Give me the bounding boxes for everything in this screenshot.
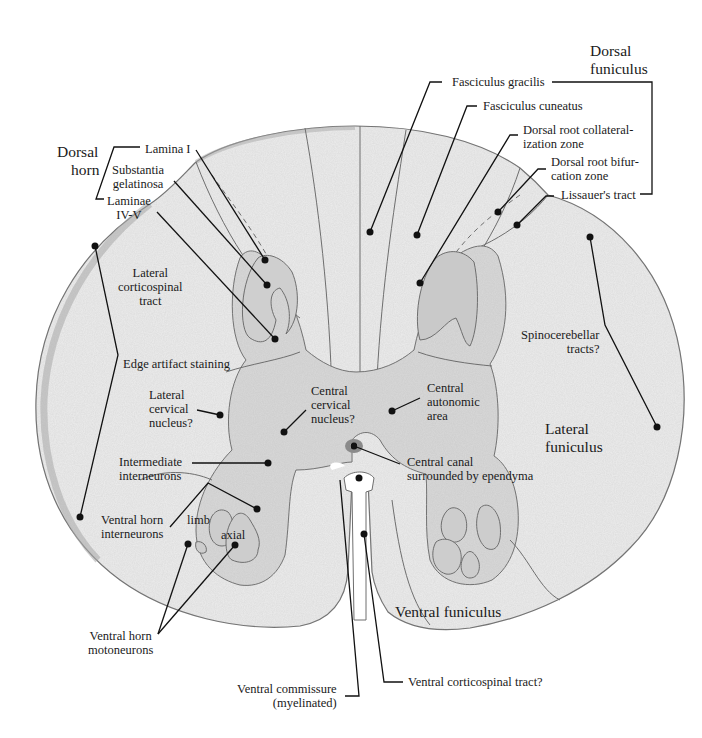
label-fasciculus-gracilis: Fasciculus gracilis [452, 75, 545, 89]
label-lateral-funiculus: Lateral funiculus [545, 420, 603, 456]
label-ventral-funiculus: Ventral funiculus [395, 603, 501, 621]
dorsal-funiculus-heading: Dorsal funiculus [590, 42, 648, 78]
label-lamina-i: Lamina I [145, 142, 190, 156]
label-axial: axial [221, 528, 245, 542]
label-lateral-cervical-nucleus: Lateral cervical nucleus? [149, 388, 193, 430]
label-spinocerebellar-tracts: Spinocerebellar tracts? [521, 328, 599, 356]
label-ventral-horn-motoneurons: Ventral horn motoneurons [88, 629, 153, 657]
label-laminae-iv-v: Laminae IV-V [107, 194, 151, 222]
label-ventral-corticospinal-tract: Ventral corticospinal tract? [408, 675, 543, 689]
label-ventral-commissure: Ventral commissure (myelinated) [237, 682, 337, 710]
label-central-canal: Central canal surrounded by ependyma [407, 455, 533, 483]
label-substantia-gelatinosa: Substantia gelatinosa [112, 163, 164, 191]
label-limb: limb [187, 513, 210, 527]
spinal-cord-diagram: Dorsal horn Dorsal funiculus Lamina I Su… [0, 0, 702, 738]
label-central-autonomic-area: Central autonomic area [427, 381, 480, 423]
label-dorsal-root-collateralization-zone: Dorsal root collateral- ization zone [523, 123, 633, 151]
label-central-cervical-nucleus: Central cervical nucleus? [311, 384, 355, 426]
label-lissauers-tract: Lissauer's tract [561, 188, 636, 202]
label-edge-artifact-staining: Edge artifact staining [123, 357, 230, 371]
label-dorsal-root-bifurcation-zone: Dorsal root bifur- cation zone [551, 155, 639, 183]
spinal-cord-section-illustration [0, 0, 702, 738]
label-intermediate-interneurons: Intermediate interneurons [119, 455, 182, 483]
label-fasciculus-cuneatus: Fasciculus cuneatus [483, 99, 583, 113]
label-lateral-corticospinal-tract: Lateral corticospinal tract [118, 266, 183, 308]
label-ventral-horn-interneurons: Ventral horn interneurons [101, 513, 163, 541]
dorsal-horn-heading: Dorsal horn [57, 143, 99, 179]
